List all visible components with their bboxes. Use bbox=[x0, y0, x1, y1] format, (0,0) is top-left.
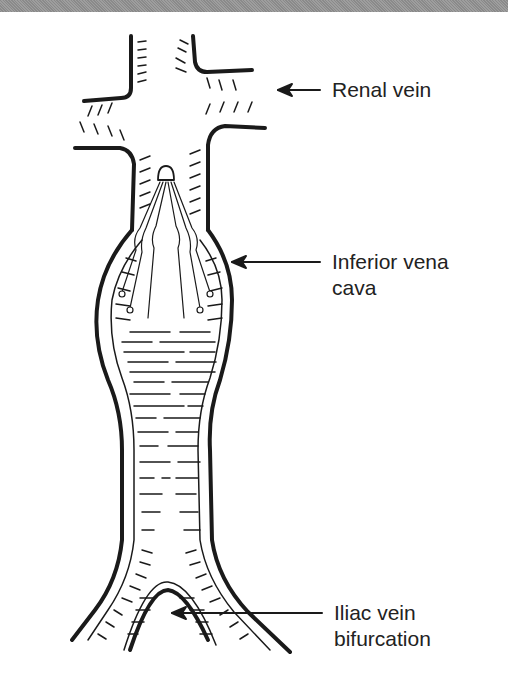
label-line: bifurcation bbox=[334, 626, 431, 652]
bifurcation-apex bbox=[130, 590, 208, 650]
label-line: Inferior vena bbox=[332, 249, 449, 275]
arrow-ivc bbox=[232, 256, 320, 268]
label-iliac-vein-bifurcation: Iliac vein bifurcation bbox=[334, 600, 431, 652]
vena-cava-illustration bbox=[0, 0, 508, 677]
label-line: Iliac vein bbox=[334, 600, 431, 626]
label-renal-vein: Renal vein bbox=[332, 77, 431, 103]
arrow-renal bbox=[278, 84, 320, 96]
right-renal-wall bbox=[208, 126, 265, 230]
upper-vein-left-wall bbox=[84, 36, 131, 101]
upper-vein-right-wall bbox=[193, 36, 252, 72]
ivc-right-wall bbox=[208, 230, 290, 652]
label-line: Renal vein bbox=[332, 77, 431, 103]
left-renal-wall bbox=[75, 148, 134, 230]
label-inferior-vena-cava: Inferior vena cava bbox=[332, 249, 449, 301]
label-line: cava bbox=[332, 275, 449, 301]
